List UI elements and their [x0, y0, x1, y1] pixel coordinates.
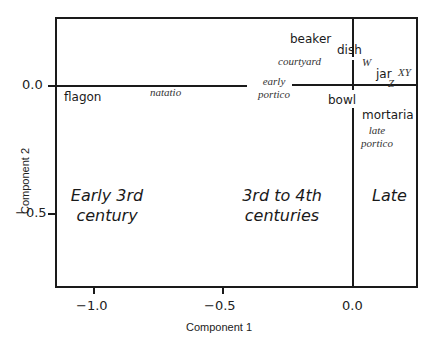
point-label-beaker: beaker — [290, 32, 331, 46]
x-axis-label: Component 1 — [186, 321, 252, 333]
x-tick-minus-1.0 — [93, 287, 95, 294]
vertical-zero-line-mid — [352, 60, 354, 90]
y-axis-label: Component 2 — [19, 146, 31, 216]
period-late: Late — [372, 186, 407, 206]
point-label-flagon: flagon — [64, 90, 101, 104]
site-label-late-portico: late portico — [357, 124, 397, 150]
site-label-portico-late: portico — [357, 137, 397, 150]
vertical-zero-line-bottom — [352, 108, 354, 287]
period-mid-line2: centuries — [232, 206, 332, 226]
site-label-portico-early: portico — [254, 88, 294, 101]
period-early-line1: Early 3rd — [62, 186, 152, 206]
x-tick-label-minus-1.0: −1.0 — [76, 298, 108, 313]
y-tick-label-0: 0.0 — [22, 77, 43, 92]
site-label-late: late — [357, 124, 397, 137]
site-label-early: early — [254, 75, 294, 88]
site-label-courtyard: courtyard — [278, 55, 321, 68]
site-label-natatio: natatio — [150, 86, 181, 99]
period-early-3rd-century: Early 3rd century — [62, 186, 152, 226]
point-label-mortaria: mortaria — [362, 108, 414, 122]
x-tick-minus-0.5 — [222, 287, 224, 294]
horizontal-zero-line-right — [292, 84, 416, 86]
site-label-XY: XY — [398, 66, 411, 79]
point-label-bowl: bowl — [328, 93, 356, 107]
period-mid-line1: 3rd to 4th — [232, 186, 332, 206]
site-label-W: W — [362, 56, 371, 69]
x-tick-label-0: 0.0 — [342, 298, 363, 313]
y-tick-0 — [48, 85, 55, 87]
x-tick-label-minus-0.5: −0.5 — [204, 298, 236, 313]
point-label-dish: dish — [337, 43, 362, 57]
y-tick-minus-0.5 — [48, 213, 55, 215]
period-3rd-to-4th-centuries: 3rd to 4th centuries — [232, 186, 332, 226]
site-label-Z: Z — [388, 77, 394, 90]
site-label-early-portico: early portico — [254, 75, 294, 101]
period-early-line2: century — [62, 206, 152, 226]
